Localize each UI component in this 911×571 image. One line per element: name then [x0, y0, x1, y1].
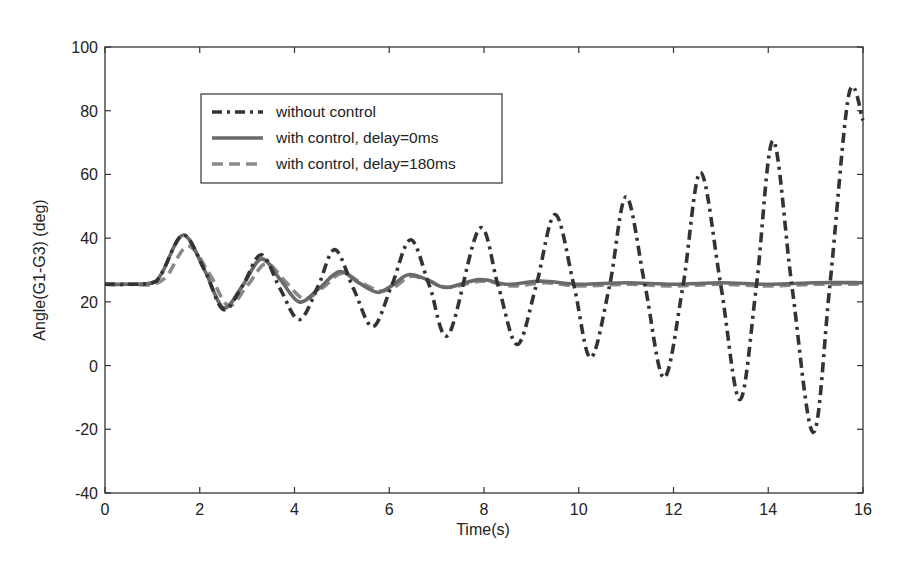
y-tick-label: 40	[80, 230, 98, 247]
y-tick-label: 20	[80, 294, 98, 311]
series-delay-0ms	[105, 235, 863, 308]
x-tick-label: 6	[385, 501, 394, 518]
y-tick-label: 60	[80, 166, 98, 183]
y-tick-label: 80	[80, 103, 98, 120]
legend-label-delay-180ms: with control, delay=180ms	[275, 155, 456, 172]
line-chart: 0246810121416-40-20020406080100 without …	[0, 0, 911, 571]
x-tick-label: 2	[195, 501, 204, 518]
x-tick-label: 14	[759, 501, 777, 518]
x-axis-label: Time(s)	[456, 521, 510, 538]
x-tick-label: 16	[854, 501, 872, 518]
y-tick-label: -20	[75, 421, 98, 438]
y-axis-label: Angle(G1-G3) (deg)	[31, 199, 48, 340]
y-tick-label: 100	[71, 39, 98, 56]
legend-label-delay-0ms: with control, delay=0ms	[275, 129, 439, 146]
x-tick-label: 8	[480, 501, 489, 518]
legend-label-without-control: without control	[275, 103, 376, 120]
x-tick-label: 4	[290, 501, 299, 518]
y-tick-label: -40	[75, 485, 98, 502]
legend: without control with control, delay=0ms …	[201, 94, 502, 183]
y-tick-label: 0	[89, 358, 98, 375]
x-tick-label: 12	[665, 501, 683, 518]
x-tick-label: 10	[570, 501, 588, 518]
x-tick-label: 0	[101, 501, 110, 518]
series-delay-180ms	[105, 246, 863, 306]
